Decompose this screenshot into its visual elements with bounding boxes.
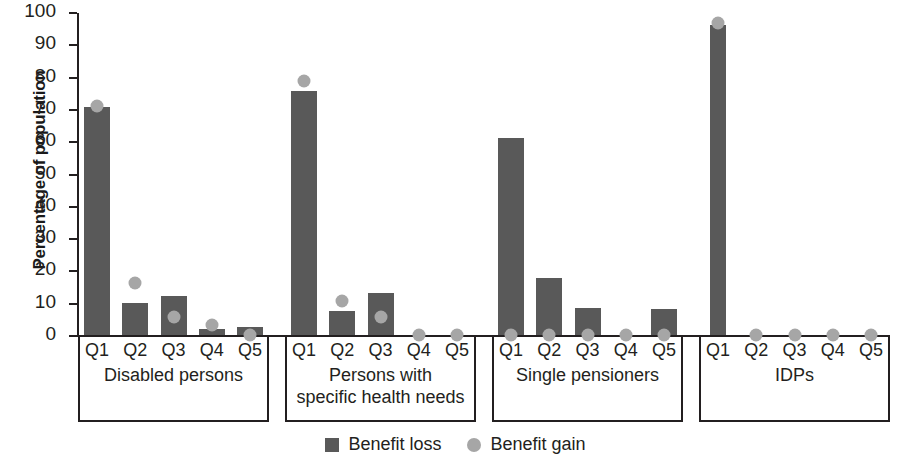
y-axis-tick-label: 90 (10, 31, 56, 55)
dot-benefit-gain (91, 99, 104, 112)
bar-benefit-loss (84, 107, 110, 335)
chart-legend: Benefit lossBenefit gain (0, 434, 911, 455)
y-axis-tick: 70 (69, 109, 77, 111)
bar-benefit-loss (291, 91, 317, 335)
y-axis-tick-label: 100 (10, 0, 56, 23)
y-axis-tick-label: 70 (10, 96, 56, 120)
bar-benefit-loss (329, 311, 355, 335)
group-bracket: Disabled persons (78, 336, 269, 422)
y-axis-tick-label: 40 (10, 193, 56, 217)
y-axis-tick-label: 10 (10, 290, 56, 314)
legend-circle-icon (467, 438, 481, 452)
y-axis-tick: 50 (69, 174, 77, 176)
y-axis-tick: 10 (69, 303, 77, 305)
y-axis-tick: 60 (69, 141, 77, 143)
bar-benefit-loss (536, 278, 562, 335)
dot-benefit-gain (374, 311, 387, 324)
y-axis-tick: 20 (69, 270, 77, 272)
group-label: IDPs (701, 364, 888, 386)
dot-benefit-gain (712, 17, 725, 30)
legend-item: Benefit loss (325, 434, 441, 455)
y-axis-tick: 30 (69, 238, 77, 240)
group-label: Persons withspecific health needs (287, 364, 474, 408)
y-axis-tick-label: 0 (10, 322, 56, 346)
y-axis-tick-label: 30 (10, 225, 56, 249)
chart-container: Percentage of population 100908070605040… (0, 0, 911, 466)
y-axis-tick-label: 50 (10, 161, 56, 185)
legend-square-icon (325, 438, 339, 452)
dot-benefit-gain (336, 295, 349, 308)
dot-benefit-gain (167, 311, 180, 324)
y-axis-tick: 90 (69, 44, 77, 46)
legend-label: Benefit gain (490, 434, 585, 455)
legend-label: Benefit loss (348, 434, 441, 455)
plot-area: 1009080706050403020100 (78, 13, 890, 336)
group-bracket: IDPs (699, 336, 890, 422)
y-axis-tick-label: 80 (10, 64, 56, 88)
dot-benefit-gain (298, 75, 311, 88)
group-label: Disabled persons (80, 364, 267, 386)
group-label: Single pensioners (494, 364, 681, 386)
y-axis-tick: 40 (69, 206, 77, 208)
bar-benefit-loss (122, 303, 148, 335)
y-axis-tick-label: 20 (10, 257, 56, 281)
y-axis-line (77, 13, 79, 336)
y-axis-tick: 100 (69, 12, 77, 14)
y-axis-tick: 0 (69, 335, 77, 337)
dot-benefit-gain (205, 319, 218, 332)
y-axis-tick: 80 (69, 77, 77, 79)
y-axis-tick-label: 60 (10, 128, 56, 152)
dot-benefit-gain (129, 277, 142, 290)
bar-benefit-loss (498, 138, 524, 335)
group-bracket: Single pensioners (492, 336, 683, 422)
group-bracket: Persons withspecific health needs (285, 336, 476, 422)
legend-item: Benefit gain (467, 434, 585, 455)
group-brackets: Disabled personsPersons withspecific hea… (78, 336, 890, 422)
bar-benefit-loss (710, 25, 726, 335)
